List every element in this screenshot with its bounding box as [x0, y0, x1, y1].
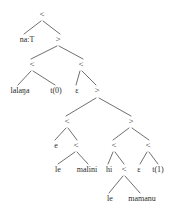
tree-node-n20: t(1): [152, 165, 164, 174]
tree-node-n0: <: [39, 9, 44, 19]
tree-branch: [82, 71, 96, 85]
tree-branch: [132, 128, 149, 140]
tree-branch: [108, 152, 113, 164]
tree-branch: [24, 21, 41, 34]
tree-node-n13: <: [111, 140, 116, 150]
tree-branch: [125, 176, 140, 193]
syntax-tree-figure: <na:T><<lalaŋat(0)ε><>e<<<lemalinihi<εt(…: [0, 0, 171, 217]
tree-node-n10: >: [128, 116, 133, 126]
tree-node-n2: >: [55, 34, 60, 44]
tree-branch: [33, 71, 55, 85]
tree-node-n18: <: [121, 164, 126, 174]
tree-branch: [59, 46, 83, 59]
tree-node-n17: hi: [106, 165, 113, 174]
tree-node-n21: le: [107, 194, 113, 203]
tree-node-n14: <: [145, 140, 150, 150]
tree-node-n5: lalaŋa: [10, 86, 30, 95]
tree-branch: [113, 128, 129, 140]
syntax-tree-canvas: <na:T><<lalaŋat(0)ε><>e<<<lemalinihi<εt(…: [0, 0, 171, 217]
tree-branch: [109, 176, 123, 193]
tree-node-n3: <: [29, 59, 34, 69]
tree-node-n15: le: [55, 165, 61, 174]
tree-branch: [31, 46, 57, 59]
tree-node-n8: >: [94, 85, 99, 95]
tree-branch: [76, 71, 80, 85]
tree-node-n11: e: [54, 141, 58, 150]
tree-branch: [115, 152, 124, 164]
tree-branch: [18, 71, 31, 85]
tree-node-n19: ε: [137, 165, 141, 174]
tree-branch: [58, 152, 75, 164]
tree-branch: [55, 128, 66, 140]
tree-node-n22: mamanu: [128, 194, 156, 203]
tree-branch: [68, 128, 77, 140]
tree-branch: [43, 21, 60, 34]
tree-branch: [77, 152, 88, 164]
tree-nodes: <na:T><<lalaŋat(0)ε><>e<<<lemalinihi<εt(…: [10, 9, 164, 203]
tree-node-n12: <: [73, 140, 78, 150]
tree-node-n6: t(0): [50, 86, 62, 95]
tree-branch: [149, 152, 158, 164]
tree-branch: [99, 98, 131, 116]
tree-node-n7: ε: [75, 86, 79, 95]
tree-branch: [66, 98, 96, 116]
tree-node-n16: malini: [77, 165, 98, 174]
tree-node-n9: <: [64, 116, 69, 126]
tree-node-n4: <: [78, 59, 83, 69]
tree-node-n1: na:T: [20, 35, 35, 44]
tree-branch: [140, 152, 147, 164]
